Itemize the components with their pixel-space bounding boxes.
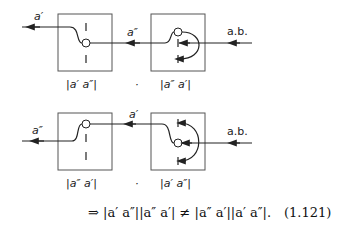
detector-circle-left-row1 bbox=[82, 39, 90, 47]
optical-diagram: a′ a″ a.b. |a′ a″| · |a″ a′| a″ a′ a.b. … bbox=[0, 0, 345, 234]
label-a-double-prime-row1: a″ bbox=[127, 26, 139, 39]
row2: a″ a′ a.b. |a″ a′| · |a′ a″| bbox=[22, 108, 252, 190]
label-ab-row2: a.b. bbox=[227, 125, 248, 138]
dot-row1: · bbox=[135, 78, 139, 91]
caption-right-row1: |a″ a′| bbox=[160, 78, 191, 91]
equation: ⇒ |a′ a″||a″ a′| ≠ |a″ a′||a′ a″|. bbox=[88, 205, 271, 220]
label-ab-row1: a.b. bbox=[227, 25, 248, 38]
dot-row2: · bbox=[135, 177, 139, 190]
label-a-prime-row1: a′ bbox=[34, 10, 44, 23]
label-a-double-prime-row2: a″ bbox=[32, 124, 44, 137]
row1: a′ a″ a.b. |a′ a″| · |a″ a′| bbox=[22, 10, 252, 91]
caption-right-row2: |a′ a″| bbox=[160, 177, 191, 190]
caption-left-row1: |a′ a″| bbox=[66, 78, 97, 91]
label-a-prime-row2: a′ bbox=[129, 108, 139, 121]
caption-left-row2: |a″ a′| bbox=[66, 177, 97, 190]
equation-number: (1.121) bbox=[284, 205, 331, 220]
